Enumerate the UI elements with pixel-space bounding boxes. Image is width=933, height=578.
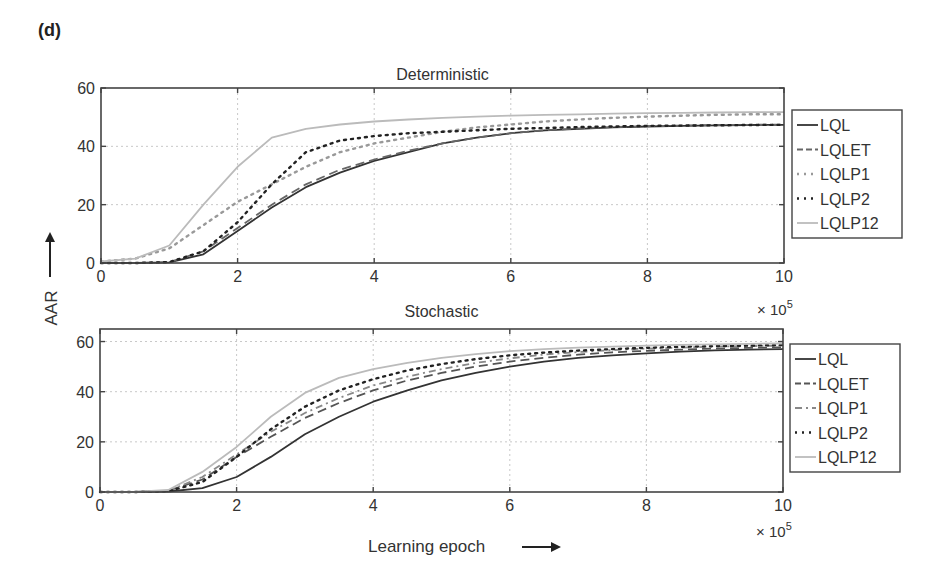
y-tick-label: 0 (85, 484, 94, 501)
x-axis-label-group: Learning epoch (368, 537, 561, 556)
legend-label-lql: LQL (820, 117, 850, 134)
legend-label-lqlet: LQLET (818, 376, 869, 393)
y-axis-label: AAR (42, 291, 61, 326)
y-tick-label: 20 (76, 434, 94, 451)
series-line-lqlp12 (101, 112, 784, 261)
series-line-lql (100, 349, 783, 492)
x-axis-label: Learning epoch (368, 537, 485, 556)
legend-label-lqlp1: LQLP1 (818, 400, 868, 417)
x-axis-arrowhead-icon (551, 542, 561, 552)
x-tick-label: 8 (642, 497, 651, 514)
legend-label-lqlp12: LQLP12 (820, 215, 879, 232)
series-line-lqlp1 (100, 346, 783, 492)
series-line-lqlp12 (100, 344, 783, 493)
x-tick-label: 0 (97, 268, 106, 285)
x-tick-label: 2 (233, 268, 242, 285)
y-axis-arrowhead-icon (45, 232, 55, 242)
legend: LQLLQLETLQLP1LQLP2LQLP12 (790, 344, 900, 472)
axes-frame (100, 329, 783, 492)
legend-label-lqlp12: LQLP12 (818, 449, 877, 466)
chart-title: Deterministic (396, 66, 488, 83)
plot-stochastic: Stochastic02468100204060× 105LQLLQLETLQL… (76, 303, 900, 540)
legend-label-lqlp1: LQLP1 (820, 166, 870, 183)
x-tick-label: 6 (506, 268, 515, 285)
x-tick-label: 4 (369, 497, 378, 514)
y-tick-label: 20 (77, 197, 95, 214)
legend-label-lqlp2: LQLP2 (818, 425, 868, 442)
y-tick-label: 40 (76, 384, 94, 401)
x-multiplier-label: × 105 (756, 520, 792, 540)
x-tick-label: 4 (370, 268, 379, 285)
x-tick-label: 8 (643, 268, 652, 285)
series-line-lqlp2 (101, 125, 784, 263)
x-tick-label: 10 (774, 497, 792, 514)
legend-label-lqlet: LQLET (820, 142, 871, 159)
y-tick-label: 60 (76, 334, 94, 351)
figure-canvas: Deterministic02468100204060× 105LQLLQLET… (0, 0, 933, 578)
plot-deterministic: Deterministic02468100204060× 105LQLLQLET… (77, 66, 902, 318)
series-line-lqlp2 (100, 345, 783, 492)
legend-label-lql: LQL (818, 351, 848, 368)
series-line-lqlet (101, 125, 784, 264)
axes-frame (101, 88, 784, 263)
x-tick-label: 0 (96, 497, 105, 514)
y-tick-label: 60 (77, 80, 95, 97)
legend-label-lqlp2: LQLP2 (820, 191, 870, 208)
legend: LQLLQLETLQLP1LQLP2LQLP12 (792, 110, 902, 238)
x-multiplier-label: × 105 (757, 298, 793, 318)
y-axis-label-group: AAR (42, 232, 61, 325)
x-tick-label: 6 (505, 497, 514, 514)
series-line-lqlp1 (101, 114, 784, 261)
y-tick-label: 0 (86, 255, 95, 272)
chart-title: Stochastic (405, 303, 479, 320)
y-tick-label: 40 (77, 138, 95, 155)
x-tick-label: 10 (775, 268, 793, 285)
series-line-lql (101, 125, 784, 263)
x-tick-label: 2 (232, 497, 241, 514)
